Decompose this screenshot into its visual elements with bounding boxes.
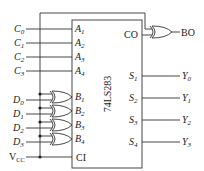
label-y0: Y0 [182, 70, 192, 83]
chip-name: 74LS283 [102, 76, 113, 113]
d-input-rows [26, 92, 52, 158]
pin-s3: S3 [129, 114, 138, 127]
pin-co: CO [124, 29, 138, 40]
pin-a2: A2 [74, 37, 85, 50]
pin-ci: CI [76, 152, 86, 163]
pin-b3: B3 [75, 119, 85, 132]
xor-gate-2 [50, 119, 72, 131]
label-y2: Y2 [182, 114, 192, 127]
pin-s1: S1 [129, 70, 138, 83]
label-y1: Y1 [182, 92, 191, 105]
xor-gate-bo [150, 26, 172, 38]
xor-gate-1 [50, 105, 72, 117]
label-d2: D2 [12, 122, 24, 135]
label-vcc: VCC [9, 151, 25, 163]
pin-b1: B1 [75, 91, 85, 104]
label-c3: C3 [14, 65, 25, 78]
label-d1: D1 [12, 108, 24, 121]
label-c2: C2 [14, 51, 25, 64]
pin-b2: B2 [75, 105, 85, 118]
label-c1: C1 [14, 37, 24, 50]
xor-gate-0 [50, 91, 72, 103]
label-d3: D3 [12, 136, 24, 149]
pin-s2: S2 [129, 92, 138, 105]
pin-a4: A4 [74, 65, 85, 78]
pin-s4: S4 [129, 136, 138, 149]
label-d0: D0 [12, 94, 24, 107]
pin-b4: B4 [75, 133, 85, 146]
c-input-rows [26, 29, 72, 71]
pin-a1: A1 [74, 23, 85, 36]
label-c0: C0 [14, 23, 25, 36]
subtractor-circuit-diagram: 74LS283 C0 C1 C2 C3 A1 A2 A3 A4 [0, 0, 204, 171]
label-y3: Y3 [182, 136, 192, 149]
output-rows [142, 76, 180, 142]
xor-gates [50, 91, 72, 145]
xor-gate-3 [50, 133, 72, 145]
pin-a3: A3 [74, 51, 85, 64]
label-bo: BO [181, 27, 195, 38]
